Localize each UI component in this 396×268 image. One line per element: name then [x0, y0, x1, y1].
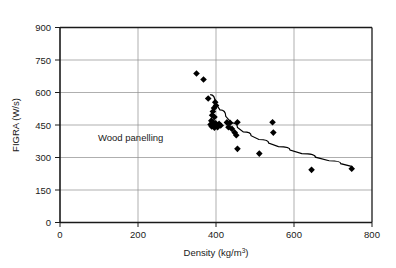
- x-tick-label-800: 800: [364, 229, 380, 240]
- x-axis-title-base: Density (kg/m: [184, 247, 242, 258]
- y-tick-label-0: 0: [46, 217, 51, 228]
- x-tick-label-200: 200: [130, 229, 146, 240]
- x-tick-label-400: 400: [208, 229, 224, 240]
- x-tick-label-0: 0: [57, 229, 62, 240]
- y-tick-label-450: 450: [35, 120, 51, 131]
- y-tick-label-600: 600: [35, 87, 51, 98]
- annotation-wood-panelling: Wood panelling: [98, 132, 163, 143]
- x-tick-label-600: 600: [286, 229, 302, 240]
- y-tick-label-150: 150: [35, 185, 51, 196]
- chart-container: 0 150 300 450 600 750 900 0 200 400 600 …: [0, 0, 396, 268]
- y-tick-label-900: 900: [35, 22, 51, 33]
- x-axis-title-close: ): [245, 247, 248, 258]
- x-axis-title: Density (kg/m3): [184, 247, 249, 259]
- figra-density-scatter-chart: 0 150 300 450 600 750 900 0 200 400 600 …: [0, 0, 396, 268]
- y-tick-label-750: 750: [35, 55, 51, 66]
- y-tick-label-300: 300: [35, 152, 51, 163]
- y-axis-title: FIGRA (W/s): [10, 98, 21, 152]
